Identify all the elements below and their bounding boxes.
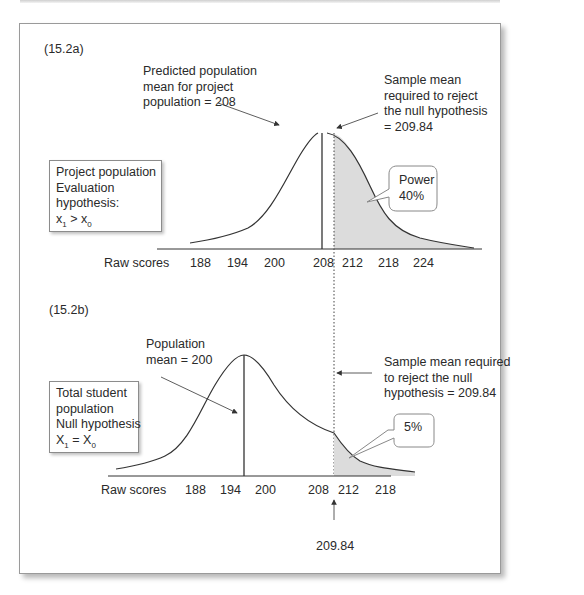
tick-200-b: 200 — [255, 483, 276, 497]
annotation-line: Sample mean required — [384, 355, 510, 371]
annotation-line: to reject the null — [384, 371, 510, 387]
project-distribution-curve — [190, 133, 318, 243]
total-student-population-box: Total student population Null hypothesis… — [49, 381, 139, 453]
annotation-line: required to reject — [384, 89, 488, 105]
tick-194-a: 194 — [227, 256, 248, 270]
box-line: population — [56, 402, 132, 418]
callout-line: 40% — [399, 189, 434, 205]
tick-218-a: 218 — [378, 256, 399, 270]
annotation-line: hypothesis = 209.84 — [384, 386, 510, 402]
tick-188-a: 188 — [190, 256, 211, 270]
null-distribution-curve — [116, 355, 415, 472]
annotation-line: Sample mean — [384, 73, 488, 89]
figure-graphics — [0, 0, 584, 595]
box-line: Total student — [56, 386, 132, 402]
x-axis-label-b: Raw scores — [101, 483, 166, 497]
tick-212-a: 212 — [342, 256, 363, 270]
tick-188-b: 188 — [185, 483, 206, 497]
tick-224-a: 224 — [413, 256, 434, 270]
annotation-line: mean for project — [143, 80, 257, 96]
critical-value-label: 209.84 — [316, 539, 354, 553]
panel-a-tag: (15.2a) — [44, 42, 84, 56]
arrow-population-mean — [161, 377, 237, 413]
annotation-line: mean = 200 — [146, 353, 212, 369]
sample-mean-annotation-b: Sample mean required to reject the null … — [384, 355, 510, 402]
tick-194-b: 194 — [220, 483, 241, 497]
tick-200-a: 200 — [264, 256, 285, 270]
annotation-line: = 209.84 — [384, 120, 488, 136]
tick-212-b: 212 — [338, 483, 359, 497]
predicted-mean-annotation: Predicted population mean for project po… — [143, 64, 257, 111]
project-population-box: Project population Evaluation hypothesis… — [49, 160, 162, 232]
annotation-line: Predicted population — [143, 64, 257, 80]
box-line: Evaluation — [56, 181, 155, 197]
tick-208-b: 208 — [308, 483, 329, 497]
x-axis-label-a: Raw scores — [104, 256, 169, 270]
annotation-line: Population — [146, 337, 212, 353]
sample-mean-annotation-a: Sample mean required to reject the null … — [384, 73, 488, 135]
evaluation-formula: x1 > x0 — [56, 212, 155, 232]
population-mean-annotation: Population mean = 200 — [146, 337, 212, 368]
power-callout-text: Power 40% — [399, 173, 434, 204]
alpha-callout-text: 5% — [404, 420, 422, 436]
box-line: hypothesis: — [56, 196, 155, 212]
box-line: Null hypothesis — [56, 417, 132, 433]
callout-line: Power — [399, 173, 434, 189]
null-formula: X1 = X0 — [56, 433, 132, 453]
arrow-sample-mean-a — [337, 113, 378, 128]
tick-218-b: 218 — [375, 483, 396, 497]
annotation-line: population = 208 — [143, 95, 257, 111]
panel-b-tag: (15.2b) — [49, 303, 89, 317]
tick-208-a: 208 — [313, 256, 334, 270]
box-line: Project population — [56, 165, 155, 181]
annotation-line: the null hypothesis — [384, 104, 488, 120]
